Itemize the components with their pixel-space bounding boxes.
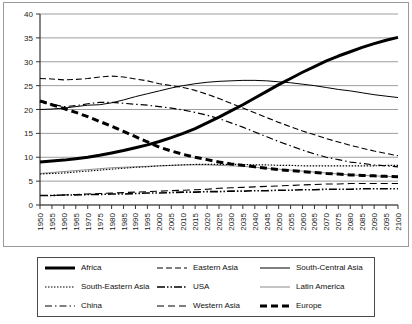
y-axis-tick-label: 10 (24, 153, 33, 162)
legend-item-label: South-Central Asia (296, 264, 363, 272)
y-axis-tick-label: 40 (24, 10, 33, 19)
legend-item-latin-america[interactable]: Latin America (259, 278, 382, 297)
x-axis-tick-label: 1965 (72, 212, 81, 230)
x-axis-tick-label: 1990 (131, 212, 140, 230)
chart-legend: AfricaEastern AsiaSouth-Central AsiaSout… (37, 257, 375, 317)
x-axis-tick-label: 2095 (382, 212, 391, 230)
x-axis-tick-label: 1955 (48, 212, 57, 230)
legend-swatch-icon (259, 263, 291, 273)
x-axis-tick-label: 2020 (203, 212, 212, 230)
legend-swatch-icon (156, 282, 188, 292)
series-line-latin-america (40, 165, 398, 177)
x-axis-tick-label: 2030 (227, 212, 236, 230)
legend-swatch-icon (156, 301, 188, 311)
x-axis-tick-label: 1980 (108, 212, 117, 230)
legend-item-label: South-Eastern Asia (81, 283, 149, 291)
x-axis-tick-label: 2080 (346, 212, 355, 230)
legend-item-label: USA (193, 283, 209, 291)
x-axis-tick-label: 2070 (322, 212, 331, 230)
y-axis-tick-label: 35 (24, 34, 33, 43)
x-axis-tick-label: 2040 (251, 212, 260, 230)
y-axis-tick-label: 15 (24, 129, 33, 138)
x-axis-tick-label: 2005 (167, 212, 176, 230)
legend-item-label: Eastern Asia (193, 264, 238, 272)
x-axis-tick-label: 2085 (358, 212, 367, 230)
x-axis-tick-label: 2000 (155, 212, 164, 230)
x-axis-tick-label: 2035 (239, 212, 248, 230)
data-series-group (40, 37, 398, 195)
x-axis-tick-label: 2090 (370, 212, 379, 230)
legend-swatch-icon (44, 282, 76, 292)
x-axis-tick-label: 2050 (275, 212, 284, 230)
legend-swatch-icon (44, 301, 76, 311)
y-axis-tick-label: 5 (29, 177, 34, 186)
y-axis-tick-label: 0 (29, 201, 34, 210)
legend-item-south-central-asia[interactable]: South-Central Asia (259, 259, 382, 278)
legend-item-label: China (81, 302, 102, 310)
series-line-western-asia (40, 184, 398, 196)
legend-swatch-icon (156, 263, 188, 273)
x-axis-tick-label: 1975 (96, 212, 105, 230)
legend-swatch-icon (259, 301, 291, 311)
legend-item-europe[interactable]: Europe (259, 296, 382, 315)
gridlines: 0510152025303540 (24, 10, 398, 210)
legend-item-label: Europe (296, 302, 322, 310)
x-axis-tick-label: 1950 (36, 212, 45, 230)
legend-item-eastern-asia[interactable]: Eastern Asia (156, 259, 259, 278)
legend-swatch-icon (259, 282, 291, 292)
legend-item-western-asia[interactable]: Western Asia (156, 296, 259, 315)
x-axis-ticks: 1950195519601965197019751980198519901995… (36, 205, 403, 231)
x-axis-tick-label: 1985 (120, 212, 129, 230)
x-axis-tick-label: 2025 (215, 212, 224, 230)
y-axis-tick-label: 25 (24, 82, 33, 91)
x-axis-tick-label: 2015 (191, 212, 200, 230)
x-axis-tick-label: 2075 (334, 212, 343, 230)
chart-figure: 0510152025303540195019551960196519701975… (0, 0, 412, 324)
series-line-south-central-asia (40, 80, 398, 109)
series-line-usa (40, 189, 398, 196)
x-axis-tick-label: 1995 (143, 212, 152, 230)
x-axis-tick-label: 2045 (263, 212, 272, 230)
x-axis-tick-label: 2060 (299, 212, 308, 230)
legend-item-china[interactable]: China (44, 296, 156, 315)
legend-item-africa[interactable]: Africa (44, 259, 156, 278)
x-axis-tick-label: 2065 (310, 212, 319, 230)
x-axis-tick-label: 1960 (60, 212, 69, 230)
legend-item-label: Africa (81, 264, 101, 272)
legend-item-label: Latin America (296, 283, 344, 291)
y-axis-tick-label: 20 (24, 106, 33, 115)
legend-item-south-eastern-asia[interactable]: South-Eastern Asia (44, 278, 156, 297)
x-axis-tick-label: 2010 (179, 212, 188, 230)
legend-swatch-icon (44, 263, 76, 273)
x-axis-tick-label: 2100 (394, 212, 403, 230)
legend-item-usa[interactable]: USA (156, 278, 259, 297)
y-axis-tick-label: 30 (24, 58, 33, 67)
x-axis-tick-label: 1970 (84, 212, 93, 230)
line-chart: 0510152025303540195019551960196519701975… (0, 0, 412, 260)
x-axis-tick-label: 2055 (287, 212, 296, 230)
legend-item-label: Western Asia (193, 302, 240, 310)
